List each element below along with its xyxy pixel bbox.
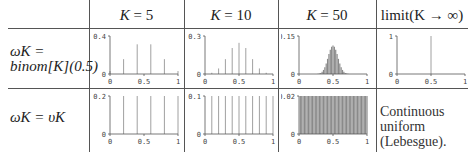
svg-text:0.5: 0.5	[425, 78, 438, 86]
svg-text:0: 0	[291, 71, 295, 79]
svg-text:0: 0	[291, 131, 295, 139]
header-rest: = 50	[317, 7, 348, 23]
svg-text:1: 1	[389, 33, 393, 41]
row-label-binomial: ωK = binom[K](0.5)	[10, 44, 98, 74]
svg-text:1: 1	[176, 78, 180, 86]
svg-text:0.4: 0.4	[93, 33, 106, 41]
row-label-line1: ωK = υK	[10, 110, 65, 125]
svg-text:0.02: 0.02	[281, 93, 295, 101]
svg-text:0.5: 0.5	[327, 138, 340, 146]
header-limit: limit(K → ∞)	[376, 4, 468, 26]
svg-text:0: 0	[395, 78, 399, 86]
header-k5: K = 5	[89, 4, 184, 26]
svg-text:0: 0	[389, 71, 393, 79]
svg-text:0: 0	[108, 78, 112, 86]
header-rest: limit(K → ∞)	[381, 7, 463, 23]
svg-text:0.3: 0.3	[188, 33, 201, 41]
svg-text:0.5: 0.5	[138, 78, 151, 86]
svg-text:1: 1	[176, 138, 180, 146]
svg-text:0.5: 0.5	[233, 138, 246, 146]
svg-text:0: 0	[297, 138, 301, 146]
header-rest: = 5	[130, 7, 153, 23]
svg-text:1: 1	[463, 78, 467, 86]
note-line: uniform	[380, 119, 446, 134]
chart-uniform-50: 0.02000.51	[281, 90, 371, 146]
row-label-uniform: ωK = υK	[10, 110, 65, 125]
svg-text:0: 0	[102, 71, 106, 79]
continuous-uniform-note: Continuous uniform (Lebesgue).	[380, 104, 446, 149]
svg-text:0.5: 0.5	[138, 138, 151, 146]
row-divider	[8, 88, 468, 89]
chart-binom-50: 0.15000.51	[281, 30, 371, 86]
row-label-line1: ωK =	[10, 44, 98, 59]
row-label-line2: binom[K](0.5)	[10, 59, 98, 74]
svg-text:0: 0	[203, 78, 207, 86]
svg-text:0.15: 0.15	[281, 33, 295, 41]
svg-text:0.2: 0.2	[93, 93, 106, 101]
svg-text:1: 1	[271, 138, 275, 146]
svg-text:0: 0	[203, 138, 207, 146]
chart-binom-5: 0.4000.51	[92, 30, 182, 86]
header-var: K	[307, 7, 317, 23]
svg-text:1: 1	[365, 138, 369, 146]
chart-uniform-10: 0.1000.51	[187, 90, 277, 146]
chart-binom-10: 0.3000.51	[187, 30, 277, 86]
header-divider	[8, 28, 468, 29]
svg-text:0: 0	[197, 131, 201, 139]
svg-text:0: 0	[108, 138, 112, 146]
svg-text:0.1: 0.1	[188, 93, 201, 101]
svg-text:0: 0	[297, 78, 301, 86]
header-rest: = 10	[221, 7, 252, 23]
header-k50: K = 50	[278, 4, 376, 26]
header-var: K	[120, 7, 130, 23]
svg-text:0: 0	[102, 131, 106, 139]
header-var: K	[211, 7, 221, 23]
svg-text:0.5: 0.5	[233, 78, 246, 86]
note-line: Continuous	[380, 104, 446, 119]
chart-binom-limit: 1000.51	[379, 30, 468, 86]
svg-text:1: 1	[271, 78, 275, 86]
svg-text:1: 1	[365, 78, 369, 86]
header-k10: K = 10	[184, 4, 278, 26]
note-line: (Lebesgue).	[380, 134, 446, 149]
svg-text:0: 0	[197, 71, 201, 79]
svg-text:0.5: 0.5	[327, 78, 340, 86]
chart-uniform-5: 0.2000.51	[92, 90, 182, 146]
